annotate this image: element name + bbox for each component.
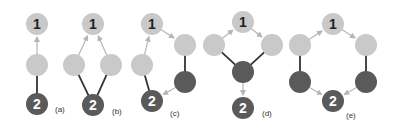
light-node (26, 54, 48, 76)
directed-edge-arrow (144, 37, 149, 56)
panel-label: (b) (112, 107, 122, 116)
dark-node (355, 71, 377, 93)
directed-edge-arrow (341, 29, 355, 38)
light-node (174, 34, 196, 56)
node-label: 2 (148, 93, 156, 109)
node-label: 2 (33, 96, 41, 112)
undirected-edge (221, 52, 235, 65)
light-node (289, 34, 311, 56)
node-label: 1 (89, 16, 97, 32)
light-node (131, 54, 153, 76)
panel-label: (a) (55, 105, 65, 114)
node-label: 1 (239, 14, 247, 30)
panel-label: (d) (262, 109, 272, 118)
light-node (203, 34, 225, 56)
light-node (100, 54, 122, 76)
light-node (63, 54, 85, 76)
dark-node (174, 71, 196, 93)
dark-node (232, 61, 254, 83)
undirected-edge (97, 74, 107, 96)
node-label: 2 (89, 97, 97, 113)
directed-edge-arrow (309, 87, 322, 95)
directed-edge-arrow (344, 87, 357, 95)
directed-edge-arrow (163, 87, 176, 95)
light-node (261, 34, 283, 56)
light-node (355, 34, 377, 56)
graph-panel-b: 12(b) (63, 13, 122, 116)
directed-edge-arrow (78, 36, 87, 56)
directed-edge-arrow (98, 36, 107, 56)
directed-edge-arrow (308, 31, 322, 40)
node-label: 2 (239, 100, 247, 116)
node-label: 1 (148, 16, 156, 32)
graph-panel-a: 12(a) (26, 13, 65, 115)
graph-panel-d: 12(d) (203, 11, 283, 119)
node-label: 1 (33, 16, 41, 32)
undirected-edge (145, 75, 150, 92)
directed-edge-arrow (222, 30, 233, 39)
undirected-edge (78, 74, 88, 96)
undirected-edge (250, 52, 264, 65)
graph-panels: 12(a)12(b)12(c)12(d)12(e) (0, 0, 399, 131)
node-label: 1 (329, 16, 337, 32)
directed-edge-arrow (251, 28, 262, 37)
graph-panel-e: 12(e) (289, 13, 377, 120)
directed-edge-arrow (160, 29, 174, 38)
dark-node (289, 71, 311, 93)
node-label: 2 (329, 93, 337, 109)
panel-label: (e) (346, 111, 356, 120)
diagram-figure: 12(a)12(b)12(c)12(d)12(e) (0, 0, 399, 131)
panel-label: (c) (170, 109, 180, 118)
graph-panel-c: 12(c) (131, 13, 196, 118)
